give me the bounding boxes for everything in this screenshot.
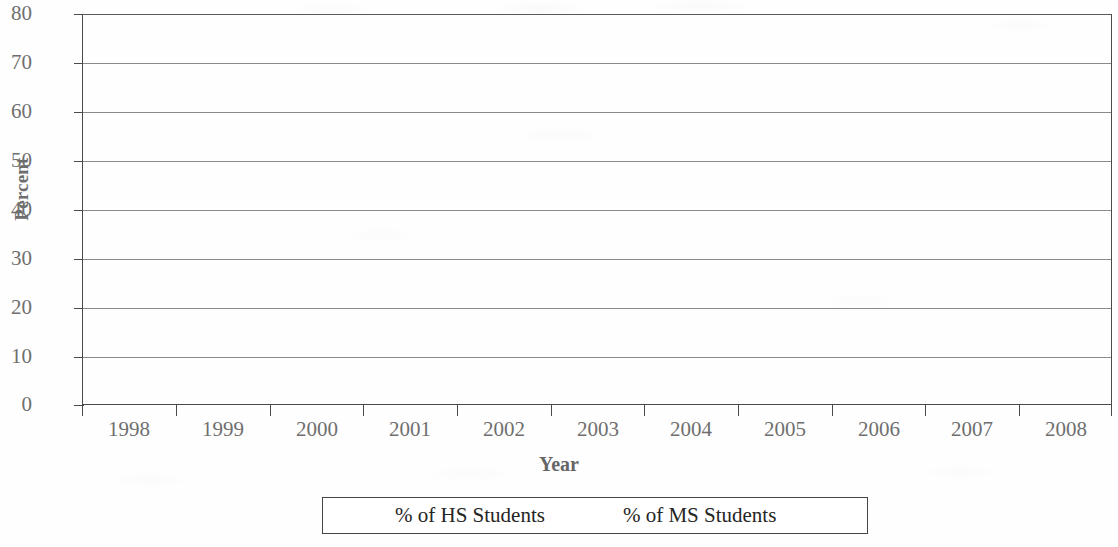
x-tick-mark	[363, 405, 364, 416]
x-axis-title: Year	[0, 453, 1118, 476]
gridline	[83, 308, 1111, 309]
y-tick-label: 40	[0, 199, 32, 220]
legend-label: % of HS Students	[395, 503, 545, 528]
x-tick-label: 2003	[551, 417, 645, 442]
x-tick-mark	[457, 405, 458, 416]
gridline	[83, 63, 1111, 64]
y-tick-label: 20	[0, 297, 32, 318]
x-tick-mark	[82, 405, 83, 416]
x-tick-label: 1998	[82, 417, 176, 442]
y-tick-label: 70	[0, 52, 32, 73]
x-tick-mark	[176, 405, 177, 416]
gridline	[83, 259, 1111, 260]
y-tick-label: 0	[0, 394, 32, 415]
x-tick-label: 2008	[1019, 417, 1113, 442]
y-tick-label: 30	[0, 248, 32, 269]
x-tick-mark	[925, 405, 926, 416]
legend-label: % of MS Students	[623, 503, 776, 528]
x-tick-label: 2006	[832, 417, 926, 442]
gridline	[83, 357, 1111, 358]
x-tick-label: 2001	[363, 417, 457, 442]
x-tick-label: 2007	[925, 417, 1019, 442]
x-tick-mark	[1019, 405, 1020, 416]
gridline	[83, 161, 1111, 162]
chart-figure: Percent 80 70 60 50 40 30 20 10 0	[0, 0, 1118, 547]
x-tick-mark	[1111, 405, 1112, 416]
x-tick-mark	[551, 405, 552, 416]
y-tick-label: 80	[0, 3, 32, 24]
plot-area	[82, 14, 1112, 405]
x-tick-mark	[832, 405, 833, 416]
x-tick-mark	[644, 405, 645, 416]
y-tick-label: 10	[0, 346, 32, 367]
y-tick-label: 50	[0, 150, 32, 171]
x-tick-label: 2004	[644, 417, 738, 442]
x-tick-label: 2005	[738, 417, 832, 442]
y-tick-label: 60	[0, 101, 32, 122]
chart-legend: % of HS Students % of MS Students	[322, 497, 868, 534]
legend-item-ms-students: % of MS Students	[623, 498, 776, 533]
x-tick-label: 1999	[176, 417, 270, 442]
x-tick-mark	[270, 405, 271, 416]
x-tick-label: 2002	[457, 417, 551, 442]
gridline	[83, 112, 1111, 113]
gridline	[83, 210, 1111, 211]
x-tick-mark	[738, 405, 739, 416]
x-tick-label: 2000	[270, 417, 364, 442]
legend-item-hs-students: % of HS Students	[395, 498, 545, 533]
